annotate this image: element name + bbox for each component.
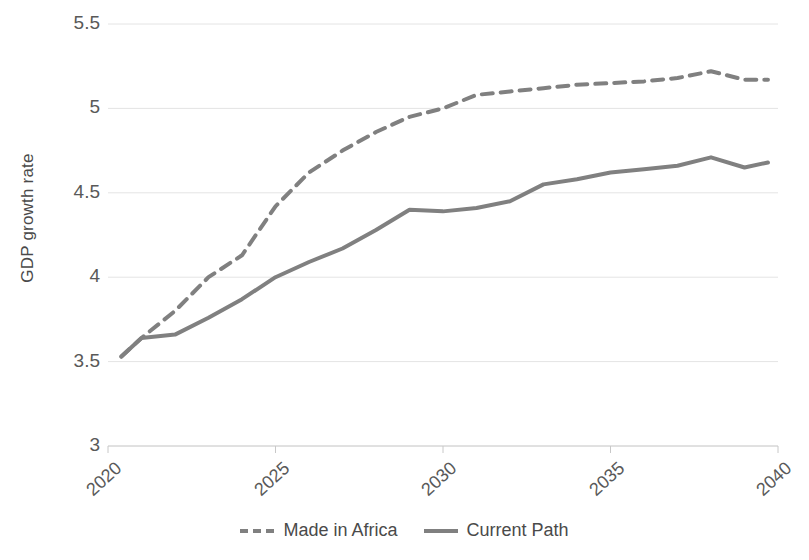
line-chart: GDP growth rate 33.544.555.5 20202025203… [0,0,809,560]
chart-legend: Made in AfricaCurrent Path [0,520,809,541]
legend-item[interactable]: Current Path [424,520,569,541]
data-series-layer [121,71,768,356]
legend-label: Made in Africa [283,520,397,541]
legend-label: Current Path [467,520,569,541]
legend-item[interactable]: Made in Africa [240,520,397,541]
legend-swatch-icon [424,529,458,533]
gridlines [108,24,778,446]
plot-area [0,0,809,560]
legend-swatch-icon [240,529,274,533]
series-line [121,157,768,356]
x-axis-tickmarks [108,446,778,453]
